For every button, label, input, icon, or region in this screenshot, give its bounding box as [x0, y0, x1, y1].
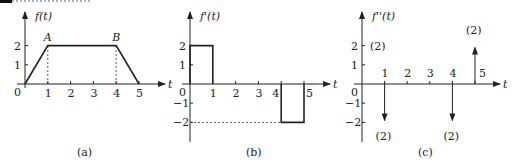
impulse-weight-label: (2)	[443, 130, 459, 143]
x-tick-label: 1	[45, 87, 52, 100]
x-tick-label: 5	[306, 87, 313, 100]
panel-caption: (c)	[418, 146, 433, 159]
y-axis-label: f(t)	[34, 10, 52, 23]
panel-b: tf'(t)01234521−1−2(b)	[173, 10, 338, 159]
x-tick-label: 3	[255, 87, 262, 100]
y-tick-label: 1	[179, 59, 186, 72]
y-tick-label: 2	[351, 40, 358, 53]
y-tick-label: −2	[345, 116, 361, 129]
panel-a: tf(t)01234512AB(a)	[14, 10, 173, 159]
origin-label: 0	[14, 86, 21, 99]
x-axis-label: t	[168, 78, 173, 91]
x-tick-label: 2	[404, 67, 411, 80]
impulse-weight-label: (2)	[370, 40, 386, 53]
x-tick-label: 3	[90, 87, 97, 100]
y-axis-label: f''(t)	[371, 10, 395, 23]
panel-caption: (a)	[77, 146, 92, 159]
point-label-b: B	[111, 31, 120, 44]
panel-caption: (b)	[246, 146, 262, 159]
x-tick-label: 5	[479, 67, 486, 80]
y-tick-label: 2	[179, 40, 186, 53]
y-axis-label: f'(t)	[199, 10, 220, 23]
x-tick-label: 4	[113, 87, 120, 100]
impulse-weight-label: (2)	[466, 24, 482, 37]
point-label-a: A	[43, 31, 52, 44]
y-tick-label: −1	[173, 97, 189, 110]
x-tick-label: 4	[449, 67, 456, 80]
pulse-segment	[190, 46, 213, 84]
y-tick-label: −1	[345, 97, 361, 110]
x-tick-label: 2	[233, 87, 240, 100]
figure: tf(t)01234512AB(a) tf'(t)01234521−1−2(b)…	[0, 0, 517, 167]
y-tick-label: −2	[173, 116, 189, 129]
y-tick-label: 1	[351, 59, 358, 72]
y-tick-label: 2	[14, 40, 21, 53]
pulse-segment	[281, 84, 304, 122]
signal-line	[25, 46, 139, 84]
x-tick-label: 3	[427, 67, 434, 80]
y-tick-label: 1	[14, 59, 21, 72]
x-axis-label: t	[333, 78, 338, 91]
x-tick-label: 5	[136, 87, 143, 100]
header-mark	[0, 0, 12, 3]
x-tick-label: 2	[68, 87, 75, 100]
x-tick-label: 1	[382, 67, 389, 80]
x-axis-label: t	[503, 78, 508, 91]
impulse-weight-label: (2)	[376, 130, 392, 143]
x-tick-label: 1	[210, 87, 217, 100]
x-tick-label: 4	[272, 87, 279, 100]
panel-c: tf''(t)01234521−1−2(2)(2)(2)(2)(c)	[345, 10, 508, 159]
